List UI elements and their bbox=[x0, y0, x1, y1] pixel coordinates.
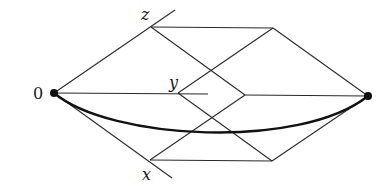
y-axis bbox=[54, 93, 208, 94]
edge-y-to-zright bbox=[178, 28, 273, 93]
z-label: z bbox=[140, 5, 150, 24]
origin-dot bbox=[50, 89, 58, 97]
edge-x-to-yright bbox=[150, 95, 245, 160]
y-label: y bbox=[168, 73, 179, 92]
edge-y-to-xright bbox=[178, 93, 272, 161]
z-axis bbox=[54, 10, 175, 93]
edge-yright-to-end bbox=[245, 95, 368, 96]
edge-z-to-yright bbox=[151, 27, 245, 95]
edge-z-to-zright bbox=[151, 27, 273, 28]
origin-label: 0 bbox=[33, 84, 43, 103]
edge-zright-to-end bbox=[273, 28, 368, 96]
cube-lattice-diagram: 0 z y x bbox=[0, 0, 391, 185]
x-label: x bbox=[142, 165, 151, 184]
end-dot bbox=[364, 92, 372, 100]
edge-x-to-xright bbox=[150, 160, 272, 161]
